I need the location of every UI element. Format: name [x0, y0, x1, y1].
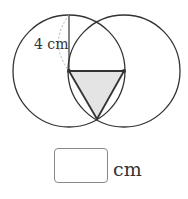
right-center-point	[122, 69, 126, 73]
radius-label: 4 cm	[34, 36, 68, 52]
left-center-point	[67, 69, 71, 73]
answer-input-box[interactable]	[54, 148, 108, 183]
answer-unit: cm	[113, 158, 142, 180]
shaded-triangle	[69, 71, 124, 119]
